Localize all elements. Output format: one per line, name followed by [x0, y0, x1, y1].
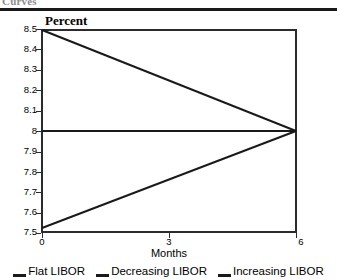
- y-tick-mark: [36, 233, 41, 234]
- x-tick-label: 3: [157, 236, 181, 247]
- x-tick-label: 6: [289, 236, 313, 247]
- y-axis-title: Percent: [45, 14, 87, 28]
- series-line-increasing-libor: [42, 131, 296, 228]
- y-tick-label: 8.2: [4, 85, 37, 95]
- legend-item-decreasing-libor: Decreasing LIBOR: [96, 265, 207, 278]
- line-chart: Percent 8.5 8.4 8.3 8.2 8.1 8 7.9 7.8 7.…: [0, 11, 337, 276]
- legend-line-icon: [96, 274, 109, 277]
- y-tick-label: 8.3: [4, 64, 37, 74]
- x-tick-label: 0: [30, 236, 54, 247]
- legend-label: Decreasing LIBOR: [111, 265, 207, 278]
- y-tick-label: 7.7: [4, 187, 37, 197]
- legend-line-icon: [13, 274, 26, 277]
- legend-line-icon: [218, 274, 231, 277]
- series-line-decreasing-libor: [42, 30, 296, 131]
- y-tick-label: 7.6: [4, 207, 37, 217]
- legend-item-increasing-libor: Increasing LIBOR: [218, 265, 324, 278]
- legend-label: Flat LIBOR: [28, 265, 85, 278]
- y-tick-label: 8: [4, 126, 37, 136]
- x-axis-title: Months: [41, 247, 297, 259]
- top-caption: Curves: [2, 0, 37, 5]
- y-tick-label: 8.1: [4, 105, 37, 115]
- plot-lines: [41, 29, 297, 233]
- legend-label: Increasing LIBOR: [233, 265, 324, 278]
- chart-legend: Flat LIBOR Decreasing LIBOR Increasing L…: [0, 262, 337, 280]
- y-tick-label: 8.4: [4, 44, 37, 54]
- y-tick-label: 7.9: [4, 146, 37, 156]
- y-tick-label: 8.5: [4, 24, 37, 34]
- y-tick-label: 7.8: [4, 167, 37, 177]
- legend-item-flat-libor: Flat LIBOR: [13, 265, 85, 278]
